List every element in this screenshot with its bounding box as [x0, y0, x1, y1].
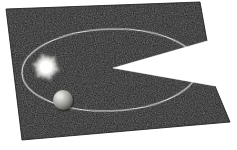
star-core	[40, 61, 52, 73]
planet-body	[53, 90, 73, 110]
planet-highlight	[57, 93, 64, 98]
figure-root: Orbital plane diagram A dark textured pa…	[0, 0, 237, 150]
orbital-diagram-svg	[0, 0, 237, 150]
